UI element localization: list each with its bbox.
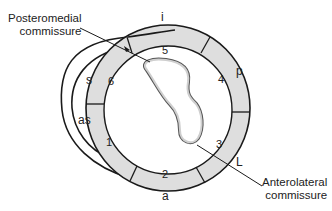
wall-label-posterior: p bbox=[236, 65, 243, 78]
posteromedial-line2: commissure bbox=[8, 25, 82, 38]
segment-number-2: 2 bbox=[162, 169, 168, 180]
anterolateral-commissure-label: Anterolateral commissure bbox=[262, 176, 327, 202]
segment-number-4: 4 bbox=[218, 74, 224, 85]
anterolateral-line1: Anterolateral bbox=[262, 176, 327, 189]
segment-number-1: 1 bbox=[106, 137, 112, 148]
wall-label-lateral: L bbox=[236, 156, 243, 169]
posteromedial-commissure-label: Posteromedial commissure bbox=[8, 12, 82, 38]
wall-label-anteroseptal: as bbox=[78, 114, 91, 127]
segment-number-3: 3 bbox=[216, 139, 222, 150]
anterolateral-line2: commissure bbox=[262, 189, 327, 202]
wall-label-anterior: a bbox=[162, 190, 169, 203]
segment-number-5: 5 bbox=[162, 45, 168, 56]
segment-number-6: 6 bbox=[108, 76, 114, 87]
wall-label-inferior: i bbox=[161, 11, 164, 24]
wall-label-septal: s bbox=[86, 74, 92, 87]
posteromedial-line1: Posteromedial bbox=[8, 12, 82, 25]
